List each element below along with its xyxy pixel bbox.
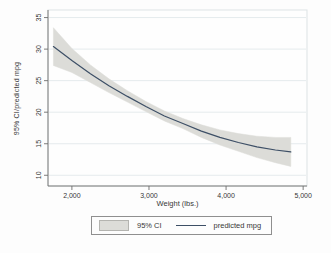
x-tick-label: 5,000	[294, 192, 312, 199]
x-axis-title: Weight (lbs.)	[48, 199, 307, 208]
y-tick-label: 20	[35, 108, 42, 116]
x-tick-label: 2,000	[63, 192, 81, 199]
ci-band-swatch	[99, 220, 129, 231]
y-axis-title: 95% CI/predicted mpg	[11, 29, 22, 169]
stata-graph: 1015202530352,0003,0004,0005,000 95% CI/…	[0, 0, 331, 253]
legend: 95% CI predicted mpg	[91, 216, 272, 235]
legend-ci-label: 95% CI	[137, 221, 162, 230]
y-tick-label: 25	[35, 77, 42, 85]
y-tick-label: 10	[35, 171, 42, 179]
y-tick-label: 35	[35, 14, 42, 22]
legend-line-label: predicted mpg	[214, 221, 262, 230]
x-tick-label: 3,000	[140, 192, 158, 199]
y-tick-label: 30	[35, 45, 42, 53]
predicted-line-swatch	[176, 225, 206, 226]
x-tick-label: 4,000	[217, 192, 235, 199]
y-tick-label: 15	[35, 140, 42, 148]
